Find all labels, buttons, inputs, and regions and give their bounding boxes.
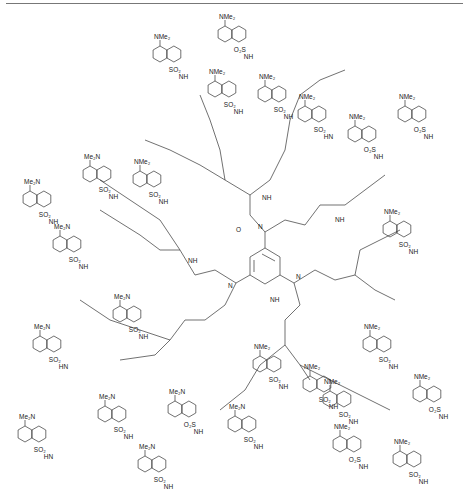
sulfonamide-nh-label: NH <box>179 73 189 80</box>
naphthalene-ring <box>153 46 167 62</box>
sulfonamide-nh-label: NH <box>424 133 434 140</box>
dansyl-unit: NMe₂SO₂NH <box>208 68 243 115</box>
dimethylamino-label: NMe₂ <box>349 113 366 120</box>
naphthalene-ring <box>303 376 317 392</box>
sulfonyl-label: SO₂ <box>39 211 51 218</box>
dimethylamino-label: NMe₂ <box>364 323 381 330</box>
sulfonyl-label: SO₂ <box>99 186 111 193</box>
sulfonamide-nh-label: NH <box>279 383 289 390</box>
sulfonamide-nh-label: NH <box>109 193 119 200</box>
dansyl-unit: NMe₂SO₂NH <box>303 363 338 410</box>
sulfonyl-label: SO₂ <box>154 476 166 483</box>
dansyl-unit: NMe₂O₂SNH <box>413 373 448 420</box>
sulfonamide-nh-label: NH <box>79 263 89 270</box>
naphthalene-ring <box>347 436 361 452</box>
sulfonamide-nh-label: NH <box>374 153 384 160</box>
naphthalene-ring <box>412 106 426 122</box>
naphthalene-ring <box>32 426 46 442</box>
amide-nh-label: NH <box>262 194 272 201</box>
dansyl-unit: NMe₂SO₂NH <box>153 33 188 80</box>
dansyl-unit: NMe₂O₂SNH <box>398 93 433 140</box>
naphthalene-ring <box>232 26 246 42</box>
dimethylamino-label: Me₂N <box>229 403 246 410</box>
naphthalene-ring <box>208 81 222 97</box>
dimethylamino-label: Me₂N <box>54 223 71 230</box>
sulfonamide-nh-label: NH <box>139 333 149 340</box>
naphthalene-ring <box>242 416 256 432</box>
dimethylamino-label: Me₂N <box>99 393 116 400</box>
dansyl-unit: NMe₂O₂SNH <box>333 423 368 470</box>
naphthalene-ring <box>23 191 37 207</box>
sulfonyl-label: SO₂ <box>49 356 61 363</box>
sulfonyl-label: SO₂ <box>409 471 421 478</box>
naphthalene-ring <box>228 416 242 432</box>
dansyl-unit: Me₂NO₂SNH <box>168 388 203 435</box>
dimethylamino-label: Me₂N <box>24 178 41 185</box>
sulfonyl-label: SO₂ <box>274 106 286 113</box>
dansyl-unit: NMe₂SO₂NH <box>253 343 288 390</box>
sulfonamide-nh-label: HN <box>44 453 54 460</box>
naphthalene-ring <box>18 426 32 442</box>
sulfonyl-label: SO₂ <box>149 191 161 198</box>
dansyl-unit: NMe₂O₂SNH <box>348 113 383 160</box>
naphthalene-ring <box>168 401 182 417</box>
dansyl-unit: NMe₂SO₂NH <box>133 158 168 205</box>
naphthalene-ring <box>83 166 97 182</box>
naphthalene-ring <box>267 356 281 372</box>
naphthalene-ring <box>133 171 147 187</box>
dansyl-unit: Me₂NSO₂HN <box>18 413 53 460</box>
dimethylamino-label: Me₂N <box>169 388 186 395</box>
dansyl-unit: NMe₂O₂SNH <box>218 13 253 60</box>
naphthalene-ring <box>218 26 232 42</box>
naphthalene-ring <box>363 336 377 352</box>
naphthalene-ring <box>393 451 407 467</box>
core-nitrogen-label: N <box>228 282 233 289</box>
naphthalene-ring <box>333 436 347 452</box>
naphthalene-ring <box>47 336 61 352</box>
sulfonyl-label: SO₂ <box>169 66 181 73</box>
naphthalene-ring <box>113 306 127 322</box>
amide-nh-label: NH <box>270 296 280 303</box>
sulfonyl-label: SO₂ <box>129 326 141 333</box>
naphthalene-ring <box>312 106 326 122</box>
naphthalene-ring <box>98 406 112 422</box>
naphthalene-ring <box>258 86 272 102</box>
dimethylamino-label: Me₂N <box>34 323 51 330</box>
dansyl-unit: NMe₂SO₂NH <box>363 323 398 370</box>
naphthalene-ring <box>377 336 391 352</box>
naphthalene-ring <box>33 336 47 352</box>
sulfonamide-nh-label: NH <box>409 248 419 255</box>
core-nitrogen-label: N <box>296 273 301 280</box>
naphthalene-ring <box>167 46 181 62</box>
dansyl-unit: Me₂NSO₂NH <box>53 223 88 270</box>
dimethylamino-label: NMe₂ <box>299 93 316 100</box>
naphthalene-ring <box>138 456 152 472</box>
sulfonyl-label: SO₂ <box>379 356 391 363</box>
sulfonyl-label: SO₂ <box>314 126 326 133</box>
sulfonamide-nh-label: NH <box>389 363 399 370</box>
sulfonamide-nh-label: NH <box>234 108 244 115</box>
dansyl-unit: NMe₂SO₂NH <box>258 73 293 120</box>
dansyl-unit: Me₂NSO₂NH <box>23 178 58 225</box>
naphthalene-ring <box>37 191 51 207</box>
dimethylamino-label: NMe₂ <box>219 13 236 20</box>
dimethylamino-label: NMe₂ <box>304 363 321 370</box>
sulfonamide-nh-label: NH <box>359 463 369 470</box>
sulfonyl-label: SO₂ <box>244 436 256 443</box>
dimethylamino-label: NMe₂ <box>209 68 226 75</box>
dansyl-unit: NMe₂SO₂NH <box>383 208 418 255</box>
naphthalene-ring <box>253 356 267 372</box>
dimethylamino-label: NMe₂ <box>414 373 431 380</box>
dansyl-unit: Me₂NSO₂NH <box>138 443 173 490</box>
sulfonamide-nh-label: NH <box>244 53 254 60</box>
naphthalene-ring <box>222 81 236 97</box>
central-benzene-core <box>80 70 400 410</box>
dimethylamino-label: Me₂N <box>114 293 131 300</box>
sulfonamide-nh-label: NH <box>439 413 449 420</box>
sulfonyl-label: O₂S <box>364 146 377 153</box>
sulfonamide-nh-label: NH <box>254 443 264 450</box>
naphthalene-ring <box>112 406 126 422</box>
sulfonyl-label: SO₂ <box>224 101 236 108</box>
naphthalene-ring <box>182 401 196 417</box>
dansyl-unit: Me₂NSO₂NH <box>113 293 148 340</box>
